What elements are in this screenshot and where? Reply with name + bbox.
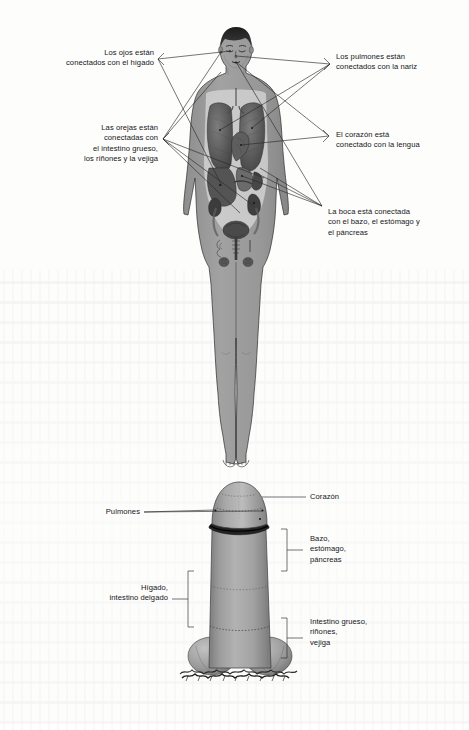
label-eyes-liver: Los ojos están conectados con el hígado bbox=[18, 48, 154, 69]
cylinder-tower-illustration bbox=[176, 478, 302, 693]
figure-caption bbox=[0, 716, 469, 725]
ground-texture bbox=[180, 670, 297, 681]
label-spleen-stomach-pancreas: Bazo, estómago, páncreas bbox=[310, 534, 420, 565]
label-ears-organs: Las orejas están conectadas con el intes… bbox=[20, 123, 158, 165]
label-mouth-organs: La boca está conectada con el bazo, el e… bbox=[328, 207, 468, 238]
label-large-intestine-kidneys-bladder: Intestino grueso, riñones, vejiga bbox=[310, 617, 434, 648]
human-figure-illustration bbox=[176, 22, 296, 472]
label-lungs: Pulmones bbox=[58, 507, 140, 517]
label-liver-small-intestine: Hígado, intestino delgado bbox=[44, 583, 168, 604]
label-lungs-nose: Los pulmones están conectados con la nar… bbox=[336, 52, 464, 73]
label-heart: Corazón bbox=[310, 492, 410, 502]
label-heart-tongue: El corazón está conectado con la lengua bbox=[336, 130, 464, 151]
